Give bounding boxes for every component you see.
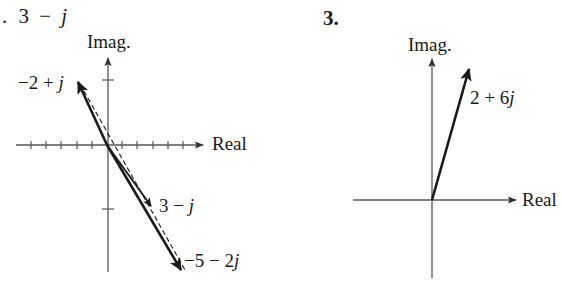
left-axes — [16, 58, 203, 272]
left-vector-result-arrow — [107, 145, 181, 270]
left-vector-a-arrow — [78, 82, 107, 145]
right-vector-z-arrow — [432, 69, 469, 200]
left-vectors — [78, 82, 185, 270]
diagram-canvas — [0, 0, 562, 283]
right-vectors — [432, 69, 469, 200]
right-axes — [353, 59, 516, 278]
left-dashed-guide — [80, 84, 185, 270]
